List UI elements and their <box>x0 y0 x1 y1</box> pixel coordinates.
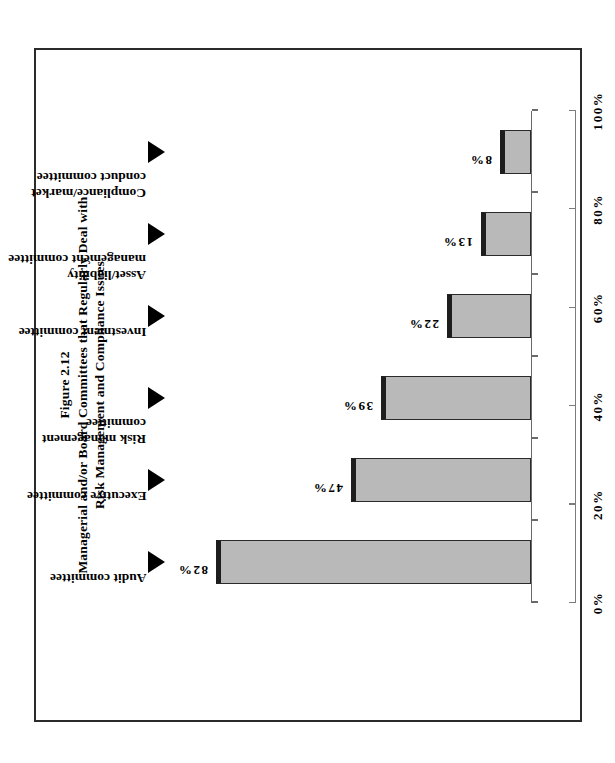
category-label-line: Risk management <box>42 432 146 447</box>
bar-chart-plot-area: 0%20%40%60%80%100% % of Respondents 82%4… <box>148 111 532 603</box>
category-tick <box>532 274 538 276</box>
bar <box>481 212 531 256</box>
category-label: Risk managementcommittee <box>42 414 146 447</box>
bar <box>447 294 531 338</box>
value-axis-line <box>575 111 576 603</box>
figure-title-block: Figure 2.12 Managerial and/or Board Comm… <box>56 55 109 715</box>
category-tick <box>532 110 538 112</box>
bar-value-label: 47% <box>312 480 343 496</box>
category-label-line: committee <box>42 414 146 430</box>
category-tick <box>532 356 538 358</box>
bar-value-label: 39% <box>343 398 374 414</box>
bar <box>500 130 531 174</box>
category-axis-line <box>531 111 533 603</box>
category-label-line: Executive committee <box>26 489 146 504</box>
value-tick-label: 40% <box>590 376 606 436</box>
bar <box>381 376 531 420</box>
figure-title-line-2: Risk Management and Compliance Issues <box>91 55 109 715</box>
category-tick <box>532 520 538 522</box>
figure-rotated-container: Figure 2.12 Managerial and/or Board Comm… <box>52 55 564 715</box>
down-triangle-icon <box>148 223 165 245</box>
bar-value-label: 22% <box>408 316 439 332</box>
down-triangle-icon <box>148 469 165 491</box>
category-label-line: Investment committee <box>18 325 146 340</box>
bar-item: 39% <box>341 376 531 420</box>
category-label: Audit committee <box>50 570 146 586</box>
value-tick-label: 100% <box>590 81 606 141</box>
bar <box>216 540 531 584</box>
bar-item: 82% <box>176 540 531 584</box>
bar <box>351 458 531 502</box>
category-label: Asset/liabilitymanagement committee <box>8 250 146 283</box>
value-tick <box>569 602 576 603</box>
bar-value-label: 8% <box>470 152 493 168</box>
down-triangle-icon <box>148 387 165 409</box>
value-tick <box>569 307 576 308</box>
figure-title-line-1: Managerial and/or Board Committees that … <box>74 55 92 715</box>
value-tick-label: 60% <box>590 278 606 338</box>
bar-value-label: 82% <box>178 562 209 578</box>
value-tick-label: 20% <box>590 475 606 535</box>
bar-item: 13% <box>441 212 531 256</box>
category-label-line: Compliance/market <box>31 186 146 201</box>
down-triangle-icon <box>148 141 165 163</box>
value-tick <box>569 405 576 406</box>
category-tick <box>532 192 538 194</box>
bar-item: 22% <box>407 294 531 338</box>
category-label-line: Asset/liability <box>67 268 146 283</box>
category-label: Executive committee <box>26 488 146 504</box>
category-tick <box>532 438 538 440</box>
value-tick <box>569 110 576 111</box>
value-tick <box>569 503 576 504</box>
category-label-line: conduct committee <box>31 168 146 184</box>
figure-number: Figure 2.12 <box>56 55 74 715</box>
figure-page-frame: Figure 2.12 Managerial and/or Board Comm… <box>34 48 582 722</box>
category-label-line: management committee <box>8 250 146 266</box>
category-label: Investment committee <box>18 324 146 340</box>
value-tick <box>569 208 576 209</box>
category-label: Compliance/marketconduct committee <box>31 168 146 201</box>
category-callout: Compliance/marketconduct committee <box>148 92 172 212</box>
value-tick-label: 80% <box>590 179 606 239</box>
down-triangle-icon <box>148 551 165 573</box>
bar-value-label: 13% <box>443 234 474 250</box>
category-tick <box>532 602 538 604</box>
category-label-line: Audit committee <box>50 571 146 586</box>
down-triangle-icon <box>148 305 165 327</box>
bar-item: 8% <box>460 130 531 174</box>
value-tick-label: 0% <box>590 573 606 633</box>
bar-item: 47% <box>311 458 531 502</box>
